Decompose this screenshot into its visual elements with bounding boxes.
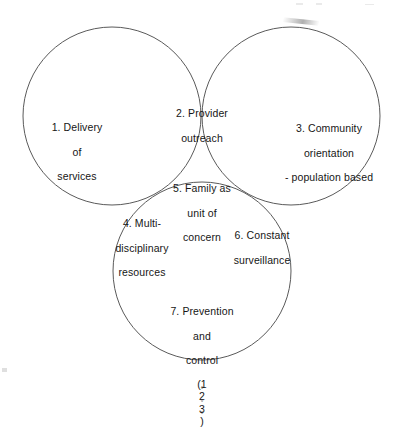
region-label-prevention-levels: (1° 2° 3°) [137,378,267,427]
prevention-paren-close: ) [137,415,267,427]
region-label-delivery: 1. Delivery of services [22,109,132,194]
region-label-community-orientation: 3. Community orientation - population ba… [262,110,396,195]
region-label-surveillance-line1: 6. Constant [206,229,318,241]
region-label-surveillance-line2: surveillance [206,254,318,266]
region-label-community-line3: - population based [262,171,396,183]
region-label-multidisciplinary-resources: 4. Multi- disciplinary resources [92,205,192,290]
scan-artifact-mark [365,4,374,5]
region-label-provider-line1: 2. Provider [146,107,258,119]
scan-artifact-mark [2,368,7,372]
region-label-delivery-line3: services [22,170,132,182]
region-label-delivery-line2: of [22,146,132,158]
region-label-family-line1: 5. Family as [148,182,256,194]
region-label-multi-line3: resources [92,266,192,278]
region-label-prevention-and-control: 7. Prevention and control (1° 2° 3°) [137,293,267,431]
region-label-prevention-line2: and [137,330,267,342]
scan-artifact-mark [316,3,322,5]
region-label-delivery-line1: 1. Delivery [22,121,132,133]
region-label-community-line1: 3. Community [262,122,396,134]
scan-artifact-mark [296,3,303,5]
region-label-constant-surveillance: 6. Constant surveillance [206,217,318,278]
region-label-provider-line2: outreach [146,132,258,144]
region-label-community-line2: orientation [262,147,396,159]
region-label-multi-line2: disciplinary [92,242,192,254]
region-label-prevention-line1: 7. Prevention [137,305,267,317]
region-label-multi-line1: 4. Multi- [92,217,192,229]
region-label-prevention-line3: control [137,354,267,366]
region-label-provider-outreach: 2. Provider outreach [146,95,258,156]
